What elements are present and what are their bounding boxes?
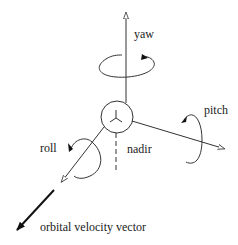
roll-rotation-arrow-icon	[68, 139, 101, 178]
roll-label: roll	[40, 142, 57, 154]
nadir-label: nadir	[127, 143, 152, 155]
yaw-rotation-arrow-icon	[99, 54, 154, 77]
roll-axis	[63, 127, 104, 180]
spacecraft-body-icon	[101, 101, 133, 133]
velocity-label: orbital velocity vector	[40, 221, 146, 233]
pitch-label: pitch	[204, 104, 228, 116]
attitude-diagram: yaw pitch roll nadir orbital velocity ve…	[0, 0, 238, 245]
axes-drawing	[0, 0, 238, 245]
yaw-label: yaw	[134, 28, 154, 40]
